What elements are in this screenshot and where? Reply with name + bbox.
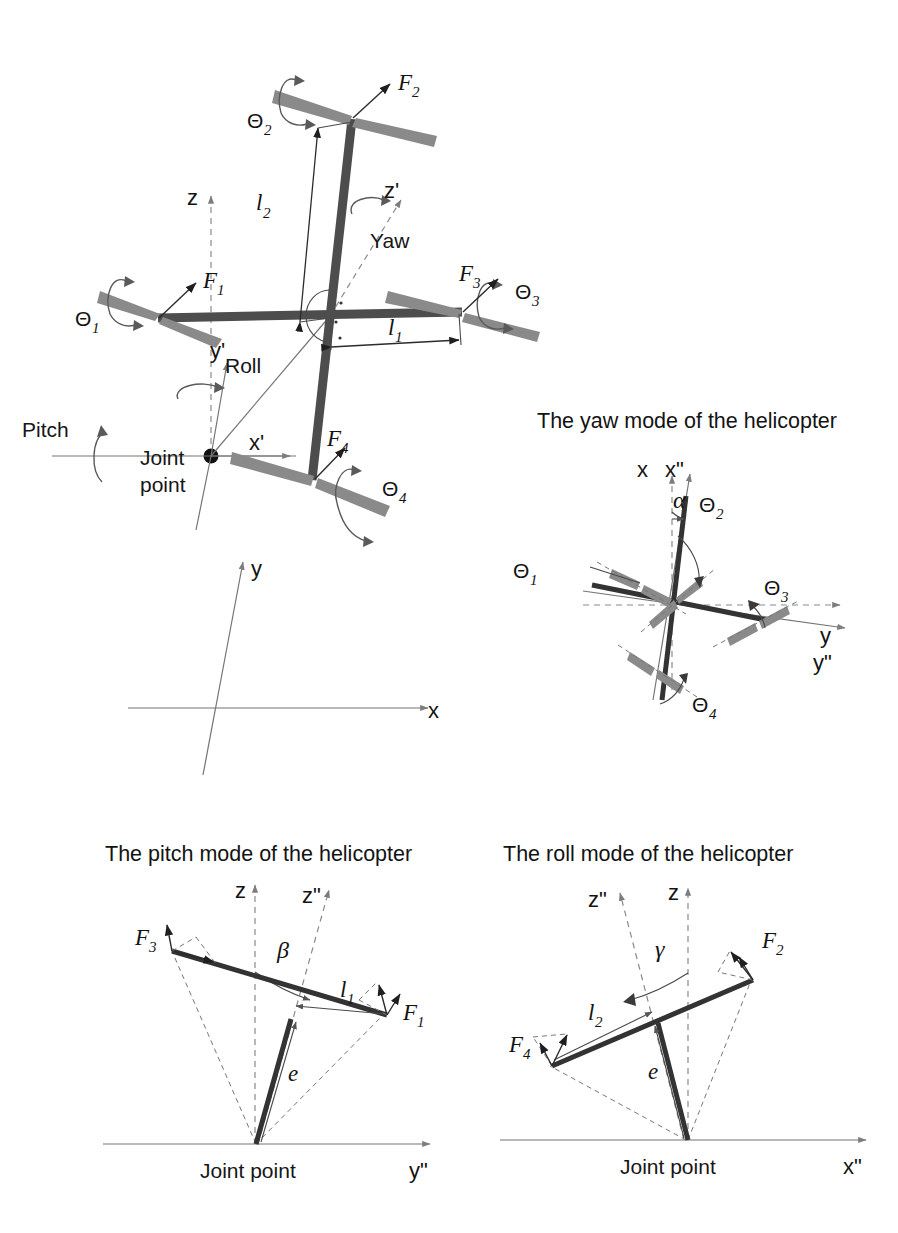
label-yaw: Yaw bbox=[370, 229, 410, 252]
pitch-rotation-arc bbox=[94, 425, 108, 482]
label-axis-y: y bbox=[251, 556, 262, 581]
svg-text:Θ: Θ bbox=[247, 109, 263, 132]
svg-text:3: 3 bbox=[148, 939, 157, 955]
svg-text:1: 1 bbox=[417, 1014, 425, 1030]
svg-text:3: 3 bbox=[472, 275, 481, 291]
svg-text:l: l bbox=[388, 315, 394, 340]
pitch-label-z: z bbox=[235, 878, 246, 903]
svg-text:1: 1 bbox=[217, 282, 225, 298]
roll-label-e: e bbox=[648, 1059, 658, 1084]
label-joint-point-line1: Joint bbox=[140, 446, 185, 469]
roll-rotation-arc bbox=[177, 382, 225, 399]
pitch-label-beta: β bbox=[276, 937, 289, 963]
yaw-rotor-4 bbox=[618, 645, 697, 704]
roll-label-gamma: γ bbox=[655, 936, 665, 962]
label-axis-x: x bbox=[428, 698, 439, 723]
main-diagram: z z' y' x' x y Yaw Roll Pitch Joint poin… bbox=[22, 70, 540, 775]
svg-text:4: 4 bbox=[709, 706, 717, 722]
svg-text:F: F bbox=[761, 928, 777, 953]
label-theta-4: Θ 4 bbox=[382, 477, 407, 506]
svg-text:4: 4 bbox=[399, 490, 407, 506]
svg-text:Θ: Θ bbox=[692, 693, 708, 716]
svg-text:2: 2 bbox=[716, 506, 724, 522]
yaw-label-theta-2: Θ 2 bbox=[699, 493, 724, 522]
yaw-panel: The yaw mode of the helicopter bbox=[513, 409, 845, 722]
body-diagonal-line bbox=[211, 316, 330, 456]
svg-text:l: l bbox=[588, 1000, 594, 1025]
roll-label-z2: z" bbox=[588, 887, 607, 912]
svg-text:Θ: Θ bbox=[382, 477, 398, 500]
pitch-ghost-left bbox=[171, 949, 256, 1144]
roll-label-f4: F 4 bbox=[508, 1032, 531, 1062]
pitch-label-y2: y" bbox=[409, 1158, 428, 1183]
roll-dim-l2 bbox=[554, 1012, 652, 1060]
yaw-rotor-3 bbox=[713, 600, 800, 647]
svg-text:F: F bbox=[202, 268, 218, 293]
pitch-label-f3: F 3 bbox=[134, 925, 157, 955]
roll-label-z: z bbox=[668, 880, 679, 905]
label-length-l1: l 1 bbox=[388, 315, 403, 345]
label-force-f2: F 2 bbox=[397, 70, 420, 100]
pitch-label-e: e bbox=[288, 1061, 298, 1086]
label-length-l2: l 2 bbox=[256, 190, 271, 221]
label-axis-z-prime: z' bbox=[384, 178, 399, 203]
svg-text:1: 1 bbox=[530, 572, 538, 588]
label-theta-1: Θ 1 bbox=[75, 307, 100, 336]
svg-text:3: 3 bbox=[531, 293, 540, 309]
yaw-label-x2: x" bbox=[665, 457, 684, 482]
pitch-label-f1: F 1 bbox=[402, 1000, 425, 1030]
label-joint-point-line2: point bbox=[140, 473, 186, 496]
svg-text:F: F bbox=[326, 426, 342, 451]
arm-horizontal bbox=[158, 312, 462, 318]
svg-text:F: F bbox=[508, 1032, 524, 1057]
label-roll: Roll bbox=[225, 354, 261, 377]
svg-text:1: 1 bbox=[92, 320, 100, 336]
svg-text:l: l bbox=[340, 977, 346, 1002]
svg-text:Θ: Θ bbox=[515, 280, 531, 303]
yaw-label-y2: y" bbox=[813, 650, 832, 675]
roll-mast-e bbox=[658, 1023, 688, 1140]
svg-text:F: F bbox=[397, 70, 413, 95]
pitch-label-joint-point: Joint point bbox=[200, 1159, 296, 1182]
label-axis-y-prime: y' bbox=[210, 338, 225, 363]
roll-gamma-arc bbox=[623, 973, 688, 1006]
svg-text:2: 2 bbox=[412, 84, 420, 100]
roll-label-f2: F 2 bbox=[761, 928, 784, 958]
figure-canvas: z z' y' x' x y Yaw Roll Pitch Joint poin… bbox=[0, 0, 898, 1233]
label-force-f4: F 4 bbox=[326, 426, 349, 456]
label-force-f1: F 1 bbox=[202, 268, 225, 298]
roll-label-l2: l 2 bbox=[588, 1000, 603, 1030]
svg-text:1: 1 bbox=[395, 329, 403, 345]
world-axis-y bbox=[203, 562, 243, 775]
svg-text:1: 1 bbox=[347, 991, 355, 1007]
svg-text:4: 4 bbox=[523, 1046, 531, 1062]
roll-dim-e bbox=[655, 1026, 684, 1138]
label-theta-2: Θ 2 bbox=[247, 109, 272, 138]
yaw-label-y: y bbox=[820, 623, 831, 648]
svg-text:F: F bbox=[134, 925, 150, 950]
pitch-label-z2: z" bbox=[302, 883, 321, 908]
pitch-panel-title: The pitch mode of the helicopter bbox=[105, 842, 412, 866]
svg-text:2: 2 bbox=[595, 1014, 603, 1030]
roll-panel-title: The roll mode of the helicopter bbox=[503, 842, 793, 866]
label-pitch: Pitch bbox=[22, 418, 69, 441]
svg-text:4: 4 bbox=[341, 440, 349, 456]
yaw-label-theta-4: Θ 4 bbox=[692, 693, 717, 722]
svg-text:l: l bbox=[256, 190, 262, 215]
yaw-label-theta-3: Θ 3 bbox=[764, 576, 789, 605]
force-f2-vector bbox=[353, 84, 390, 118]
svg-text:Θ: Θ bbox=[699, 493, 715, 516]
yaw-label-theta-1: Θ 1 bbox=[513, 559, 538, 588]
roll-label-x2: x" bbox=[843, 1154, 862, 1179]
svg-text:2: 2 bbox=[263, 205, 271, 221]
force-f1-vector bbox=[159, 283, 196, 318]
svg-text:3: 3 bbox=[780, 589, 789, 605]
svg-text:F: F bbox=[458, 261, 474, 286]
pitch-mast-e bbox=[256, 1019, 291, 1144]
label-theta-3: Θ 3 bbox=[515, 280, 540, 309]
yaw-label-x: x bbox=[637, 457, 648, 482]
svg-text:F: F bbox=[402, 1000, 418, 1025]
yaw-label-alpha: α bbox=[673, 487, 686, 513]
label-force-f3: F 3 bbox=[458, 261, 481, 291]
svg-text:2: 2 bbox=[264, 122, 272, 138]
